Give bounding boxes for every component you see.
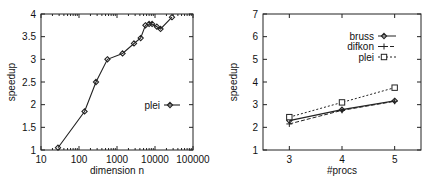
plot-frame: [41, 14, 193, 150]
plot-frame: [263, 14, 421, 150]
y-tick-label: 1: [30, 145, 36, 156]
legend-label-bruss: bruss: [350, 31, 374, 42]
y-tick-label: 3.5: [22, 31, 36, 42]
y-tick-label: 3: [30, 54, 36, 65]
series-line-plei: [58, 17, 172, 148]
x-axis-label: #procs: [327, 165, 357, 176]
y-tick-label: 7: [252, 9, 258, 20]
y-tick-label: 2: [252, 122, 258, 133]
y-axis-label: speedup: [228, 62, 239, 101]
y-tick-label: 3: [252, 99, 258, 110]
plus-marker-icon: [392, 98, 398, 104]
x-tick-label: 100: [71, 154, 88, 165]
plus-marker-icon: [286, 121, 292, 127]
y-tick-label: 1: [252, 145, 258, 156]
legend-label-difkon: difkon: [347, 41, 374, 52]
square-marker-icon: [287, 114, 292, 119]
y-axis-label: speedup: [6, 62, 17, 101]
y-tick-label: 4: [30, 9, 36, 20]
square-marker-icon: [392, 85, 397, 90]
x-axis-label: dimension n: [90, 165, 144, 176]
x-tick-label: 1000: [106, 154, 129, 165]
y-tick-label: 4: [252, 77, 258, 88]
y-tick-label: 5: [252, 54, 258, 65]
y-tick-label: 1.5: [22, 122, 36, 133]
square-marker-icon: [339, 100, 344, 105]
legend-label-plei: plei: [358, 52, 374, 63]
plus-marker-icon: [339, 107, 345, 113]
square-marker-icon: [381, 54, 386, 59]
chart-figure: 1010010001000010000011.522.533.54dimensi…: [0, 0, 430, 184]
y-tick-label: 6: [252, 31, 258, 42]
x-tick-label: 4: [339, 154, 345, 165]
y-tick-label: 2: [30, 99, 36, 110]
x-tick-label: 10000: [141, 154, 169, 165]
x-tick-label: 10: [35, 154, 47, 165]
x-tick-label: 5: [392, 154, 398, 165]
right-plot-speedup-vs-procs: 3451234567#procsspeedupbrussdifkonplei: [228, 9, 421, 177]
legend-label-plei: plei: [144, 100, 160, 111]
y-tick-label: 2.5: [22, 77, 36, 88]
x-tick-label: 3: [287, 154, 293, 165]
plus-marker-icon: [381, 44, 387, 50]
x-tick-label: 100000: [176, 154, 210, 165]
left-plot-speedup-vs-dimension: 1010010001000010000011.522.533.54dimensi…: [6, 9, 210, 177]
